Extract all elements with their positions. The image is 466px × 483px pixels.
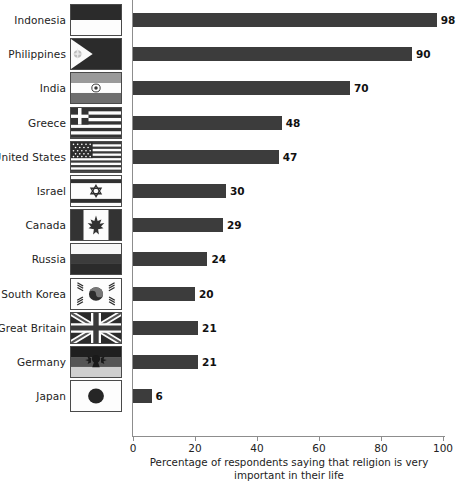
greece-flag-icon	[70, 107, 122, 139]
country-label: Russia	[0, 242, 66, 276]
chart-row: Japan6	[0, 379, 466, 413]
x-axis-tick-label: 40	[250, 442, 263, 454]
chart-row: Great Britain21	[0, 311, 466, 345]
country-label: Canada	[0, 208, 66, 242]
x-axis-tick	[195, 436, 196, 441]
x-axis-tick-label: 60	[312, 442, 325, 454]
chart-row: Israel30	[0, 174, 466, 208]
great-britain-flag-icon	[70, 312, 122, 344]
bar-chart: Indonesia98Philippines90India70Greece48U…	[0, 0, 466, 483]
chart-row: Germany21	[0, 345, 466, 379]
x-axis-label: Percentage of respondents saying that re…	[133, 456, 445, 482]
chart-row: Canada29	[0, 208, 466, 242]
country-label: South Korea	[0, 277, 66, 311]
bar-value-label: 70	[350, 81, 369, 95]
south-korea-flag-icon	[70, 278, 122, 310]
bar-value-label: 6	[152, 389, 163, 403]
israel-flag-icon	[70, 175, 122, 207]
x-axis-label-line1: Percentage of respondents saying that re…	[133, 456, 445, 469]
bar-value-label: 21	[198, 321, 217, 335]
x-axis-tick	[443, 436, 444, 441]
x-axis-tick-label: 100	[433, 442, 453, 454]
bar	[133, 47, 412, 61]
country-label: United States	[0, 140, 66, 174]
canada-flag-icon	[70, 209, 122, 241]
country-label: Japan	[0, 379, 66, 413]
bar	[133, 116, 282, 130]
bar-value-label: 48	[282, 116, 301, 130]
bar-value-label: 24	[207, 252, 226, 266]
x-axis-tick-label: 0	[130, 442, 137, 454]
germany-flag-icon	[70, 346, 122, 378]
indonesia-flag-icon	[70, 4, 122, 36]
y-axis-line	[132, 0, 133, 437]
chart-row: Philippines90	[0, 37, 466, 71]
bar	[133, 321, 198, 335]
bar	[133, 150, 279, 164]
country-label: Indonesia	[0, 3, 66, 37]
russia-flag-icon	[70, 243, 122, 275]
bar	[133, 218, 223, 232]
chart-row: Indonesia98	[0, 3, 466, 37]
x-axis-label-line2: important in their life	[133, 469, 445, 482]
country-label: Greece	[0, 106, 66, 140]
chart-row: India70	[0, 71, 466, 105]
country-label: Philippines	[0, 37, 66, 71]
chart-row: South Korea20	[0, 277, 466, 311]
x-axis-tick-label: 80	[374, 442, 387, 454]
chart-row: Russia24	[0, 242, 466, 276]
bar-value-label: 20	[195, 287, 214, 301]
philippines-flag-icon	[70, 38, 122, 70]
bar	[133, 355, 198, 369]
x-axis-line	[132, 436, 445, 437]
japan-flag-icon	[70, 380, 122, 412]
india-flag-icon	[70, 72, 122, 104]
chart-row: United States47	[0, 140, 466, 174]
bar-value-label: 29	[223, 218, 242, 232]
bar-value-label: 90	[412, 47, 431, 61]
x-axis-tick	[319, 436, 320, 441]
bar	[133, 252, 207, 266]
x-axis-tick-label: 20	[188, 442, 201, 454]
bar	[133, 81, 350, 95]
country-label: Israel	[0, 174, 66, 208]
chart-row: Greece48	[0, 106, 466, 140]
bar-value-label: 98	[437, 13, 456, 27]
bar	[133, 389, 152, 403]
bar	[133, 184, 226, 198]
bar-value-label: 47	[279, 150, 298, 164]
country-label: India	[0, 71, 66, 105]
bar	[133, 13, 437, 27]
country-label: Great Britain	[0, 311, 66, 345]
bar	[133, 287, 195, 301]
country-label: Germany	[0, 345, 66, 379]
x-axis-tick	[381, 436, 382, 441]
x-axis-tick	[133, 436, 134, 441]
bar-value-label: 30	[226, 184, 245, 198]
x-axis-tick	[257, 436, 258, 441]
united-states-flag-icon	[70, 141, 122, 173]
bar-value-label: 21	[198, 355, 217, 369]
